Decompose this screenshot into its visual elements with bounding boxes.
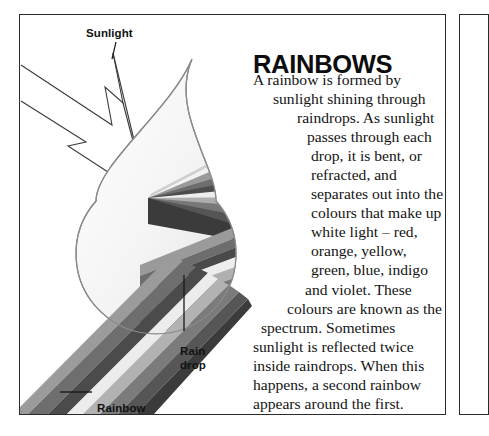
article-body: A rainbow is formed by sunlight shining … [253, 70, 446, 415]
article-panel: Sunlight Rain drop Rainbow RAINBOWS A ra… [19, 14, 446, 415]
wrap-spacer [253, 146, 307, 165]
label-sunlight: Sunlight [86, 27, 133, 41]
wrap-spacer [253, 165, 311, 279]
wrap-spacer [253, 279, 305, 298]
wrap-spacer [253, 108, 273, 127]
label-raindrop: Rain drop [180, 345, 206, 372]
wrap-spacer [253, 298, 287, 317]
label-rainbow: Rainbow [97, 402, 146, 414]
rainbow-diagram: Sunlight Rain drop Rainbow [20, 15, 252, 414]
wrap-spacer [253, 127, 297, 146]
diagram-canvas [20, 15, 252, 414]
adjacent-page-panel [459, 14, 489, 415]
wrap-spacer [253, 317, 261, 336]
